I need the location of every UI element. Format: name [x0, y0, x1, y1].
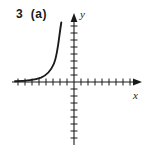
x-axis-label: x — [132, 89, 138, 101]
exponential-graph-figure: 3 (a) — [0, 0, 153, 153]
exponential-curve — [15, 23, 61, 82]
y-axis-label: y — [79, 8, 85, 20]
y-axis-arrow-icon — [71, 13, 78, 22]
coordinate-plot: y x — [0, 0, 153, 153]
x-axis-arrow-icon — [133, 79, 142, 86]
